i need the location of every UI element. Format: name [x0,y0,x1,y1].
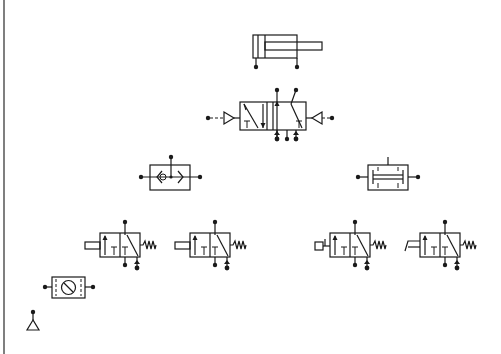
port-dot[interactable] [294,88,298,92]
port-dot[interactable] [295,65,299,69]
5-2-pilot-operated-valve[interactable] [206,88,334,142]
3-2-valve-idle-roller-spring[interactable] [405,220,476,271]
3-2-valve-plunger-spring-2[interactable] [175,220,246,271]
double-acting-cylinder[interactable] [253,35,322,69]
shuttle-valve-or[interactable] [139,155,202,190]
port-dot[interactable] [254,65,258,69]
pilot-port-dot[interactable] [330,116,334,120]
two-pressure-valve-and[interactable] [356,157,420,190]
3-2-valve-plunger-spring-1[interactable] [85,220,156,271]
pilot-port-dot[interactable] [206,116,210,120]
port-dot[interactable] [275,88,279,92]
time-delay-gauge-unit[interactable] [43,277,95,298]
3-2-valve-roller-spring[interactable] [315,220,386,271]
compressed-air-source-icon[interactable] [27,310,39,330]
pneumatic-diagram-canvas [0,0,501,354]
